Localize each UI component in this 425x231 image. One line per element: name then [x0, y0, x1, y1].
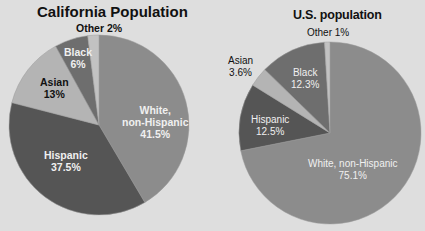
ca-label-white: White,non-Hispanic41.5% — [122, 104, 189, 140]
pie-charts — [0, 0, 425, 231]
ca-label-black: Black6% — [64, 46, 92, 70]
ca-label-other: Other 2% — [76, 22, 122, 34]
ca-label-hispanic: Hispanic37.5% — [44, 149, 88, 173]
ca-label-asian: Asian13% — [40, 76, 69, 100]
us-label-other: Other 1% — [307, 27, 349, 39]
us-label-asian: Asian3.6% — [228, 55, 253, 79]
us-label-white: White, non-Hispanic75.1% — [308, 158, 397, 182]
us-label-hispanic: Hispanic12.5% — [251, 114, 289, 138]
us-label-black: Black12.3% — [291, 67, 319, 91]
